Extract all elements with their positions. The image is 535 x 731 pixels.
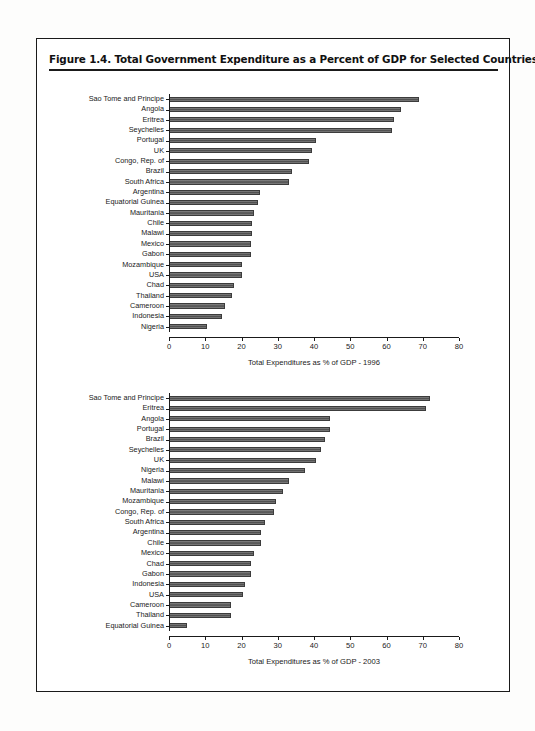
x-tick: [169, 338, 170, 341]
page-canvas: Figure 1.4. Total Government Expenditure…: [0, 0, 535, 731]
category-label: Mauritania: [130, 486, 164, 496]
bar-row: Portugal: [169, 135, 459, 145]
category-label: South Africa: [125, 177, 164, 187]
bar: [169, 200, 258, 205]
x-tick-label: 30: [274, 342, 282, 351]
bar-row: Brazil: [169, 166, 459, 176]
bar: [169, 97, 419, 102]
category-label: Indonesia: [132, 311, 164, 321]
x-tick: [169, 637, 170, 640]
plot-area: Sao Tome and PrincipeEritreaAngolaPortug…: [169, 393, 459, 631]
bar-row: Malawi: [169, 476, 459, 486]
bar-row: Cameroon: [169, 600, 459, 610]
bar: [169, 623, 187, 628]
category-label: Mexico: [141, 239, 164, 249]
category-label: Cameroon: [130, 301, 164, 311]
x-axis-title: Total Expenditures as % of GDP - 2003: [169, 657, 459, 666]
bar-row: Mexico: [169, 239, 459, 249]
category-label: Mauritania: [130, 208, 164, 218]
bar-row: Argentina: [169, 527, 459, 537]
category-label: Congo, Rep. of: [115, 156, 164, 166]
category-label: Mozambique: [122, 260, 164, 270]
category-label: Equatorial Guinea: [106, 197, 164, 207]
category-label: Congo, Rep. of: [115, 507, 164, 517]
bar: [169, 221, 252, 226]
bar: [169, 272, 242, 277]
bar: [169, 499, 276, 504]
bar-row: Thailand: [169, 291, 459, 301]
bar: [169, 314, 222, 319]
bar-row: Chile: [169, 218, 459, 228]
bar: [169, 283, 234, 288]
bar: [169, 551, 254, 556]
bar: [169, 148, 312, 153]
x-tick: [423, 637, 424, 640]
x-tick: [350, 338, 351, 341]
bar: [169, 406, 426, 411]
x-tick-label: 70: [419, 641, 427, 650]
bar: [169, 416, 330, 421]
chart-1996: Sao Tome and PrincipeAngolaEritreaSeyche…: [37, 86, 511, 376]
bar-row: Nigeria: [169, 322, 459, 332]
category-label: Seychelles: [129, 445, 164, 455]
bar-row: Mozambique: [169, 260, 459, 270]
bar-row: Equatorial Guinea: [169, 197, 459, 207]
category-label: UK: [154, 455, 164, 465]
bar: [169, 252, 251, 257]
category-label: Chile: [147, 218, 164, 228]
bar-row: Congo, Rep. of: [169, 156, 459, 166]
bar: [169, 231, 252, 236]
bar-row: Gabon: [169, 569, 459, 579]
category-label: Brazil: [146, 434, 164, 444]
bar: [169, 582, 245, 587]
x-tick: [314, 637, 315, 640]
bar: [169, 241, 251, 246]
x-tick-label: 50: [346, 342, 354, 351]
category-label: Gabon: [142, 249, 164, 259]
bar-row: Cameroon: [169, 301, 459, 311]
category-label: USA: [149, 270, 164, 280]
bar: [169, 324, 207, 329]
x-tick-label: 80: [455, 342, 463, 351]
x-tick-label: 30: [274, 641, 282, 650]
bar-row: Brazil: [169, 434, 459, 444]
x-tick: [278, 637, 279, 640]
bar: [169, 592, 243, 597]
bar: [169, 128, 392, 133]
bar: [169, 169, 292, 174]
bar-row: Sao Tome and Principe: [169, 393, 459, 403]
bar: [169, 293, 232, 298]
bar-row: Indonesia: [169, 579, 459, 589]
category-label: Thailand: [136, 610, 164, 620]
y-axis-line: [169, 393, 170, 631]
bar-row: Gabon: [169, 249, 459, 259]
category-label: Nigeria: [141, 322, 164, 332]
category-label: Chad: [147, 559, 164, 569]
x-tick-label: 0: [167, 641, 171, 650]
x-tick: [387, 637, 388, 640]
category-label: Thailand: [136, 291, 164, 301]
category-label: Sao Tome and Principe: [89, 393, 164, 403]
bar: [169, 303, 225, 308]
bar-row: USA: [169, 590, 459, 600]
plot-area: Sao Tome and PrincipeAngolaEritreaSeyche…: [169, 94, 459, 332]
category-label: Argentina: [133, 187, 164, 197]
category-label: UK: [154, 146, 164, 156]
category-label: Eritrea: [143, 115, 165, 125]
category-label: Malawi: [141, 476, 164, 486]
bar-row: South Africa: [169, 177, 459, 187]
category-label: Equatorial Guinea: [106, 621, 164, 631]
category-label: Indonesia: [132, 579, 164, 589]
x-tick: [459, 338, 460, 341]
category-label: USA: [149, 590, 164, 600]
category-label: Chile: [147, 538, 164, 548]
bar-row: Mauritania: [169, 486, 459, 496]
x-tick-label: 80: [455, 641, 463, 650]
bar: [169, 489, 283, 494]
x-tick: [314, 338, 315, 341]
category-label: Brazil: [146, 166, 164, 176]
x-tick: [387, 338, 388, 341]
x-tick-label: 0: [167, 342, 171, 351]
x-tick-label: 20: [237, 641, 245, 650]
x-tick: [205, 338, 206, 341]
